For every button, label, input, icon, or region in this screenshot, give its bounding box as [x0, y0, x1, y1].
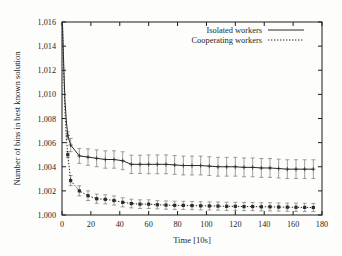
data-point-marker	[260, 205, 263, 208]
data-point-marker	[312, 206, 315, 209]
data-point-marker	[251, 205, 254, 208]
data-point-marker	[66, 153, 69, 156]
data-point-marker	[182, 204, 185, 207]
data-point-marker	[121, 201, 124, 204]
series-line	[62, 22, 313, 208]
y-tick-label: 1,006	[38, 139, 56, 148]
data-series-layer	[62, 22, 315, 212]
y-tick-label: 1,000	[38, 211, 56, 220]
x-tick-label: 20	[87, 220, 95, 229]
x-axis-title: Time [10s]	[173, 235, 211, 245]
data-point-marker	[303, 206, 306, 209]
y-tick-label: 1,002	[38, 187, 56, 196]
data-point-marker	[104, 198, 107, 201]
x-tick-label: 180	[316, 220, 328, 229]
series-line	[62, 22, 313, 169]
legend-label-1: Isolated workers	[206, 26, 262, 35]
data-point-marker	[173, 204, 176, 207]
line-chart: 1,0001,0021,0041,0061,0081,0101,0121,014…	[0, 0, 342, 256]
data-point-marker	[78, 189, 81, 192]
data-point-marker	[69, 179, 72, 182]
series-2	[62, 22, 315, 212]
x-tick-label: 40	[116, 220, 124, 229]
data-point-marker	[130, 202, 133, 205]
data-point-marker	[286, 206, 289, 209]
y-tick-label: 1,012	[38, 66, 56, 75]
data-point-marker	[138, 203, 141, 206]
plot-border	[62, 22, 322, 215]
data-point-marker	[147, 203, 150, 206]
x-axis-ticks: 020406080100120140160180	[60, 22, 328, 229]
data-point-marker	[199, 204, 202, 207]
data-point-marker	[225, 205, 228, 208]
y-tick-label: 1,004	[38, 163, 56, 172]
x-tick-label: 120	[229, 220, 241, 229]
chart-legend: Isolated workersCooperating workers	[192, 26, 304, 45]
x-tick-label: 140	[258, 220, 270, 229]
data-point-marker	[216, 204, 219, 207]
y-axis-title: Number of bins in best known solution	[12, 51, 22, 186]
legend-label-2: Cooperating workers	[192, 36, 262, 45]
x-tick-label: 0	[60, 220, 64, 229]
data-point-marker	[294, 206, 297, 209]
data-point-marker	[268, 205, 271, 208]
data-point-marker	[86, 194, 89, 197]
data-point-marker	[234, 205, 237, 208]
data-point-marker	[190, 204, 193, 207]
data-point-marker	[112, 199, 115, 202]
y-tick-label: 1,010	[38, 90, 56, 99]
x-tick-label: 80	[173, 220, 181, 229]
plot-frame	[62, 22, 322, 215]
data-point-marker	[242, 205, 245, 208]
y-tick-label: 1,016	[38, 18, 56, 27]
x-tick-label: 100	[200, 220, 212, 229]
y-tick-label: 1,008	[38, 115, 56, 124]
chart-figure: 1,0001,0021,0041,0061,0081,0101,0121,014…	[0, 0, 342, 256]
data-point-marker	[208, 204, 211, 207]
data-point-marker	[156, 203, 159, 206]
x-tick-label: 160	[287, 220, 299, 229]
series-1	[62, 22, 315, 179]
data-point-marker	[95, 197, 98, 200]
data-point-marker	[164, 204, 167, 207]
data-point-marker	[277, 205, 280, 208]
x-tick-label: 60	[145, 220, 153, 229]
y-tick-label: 1,014	[38, 42, 56, 51]
